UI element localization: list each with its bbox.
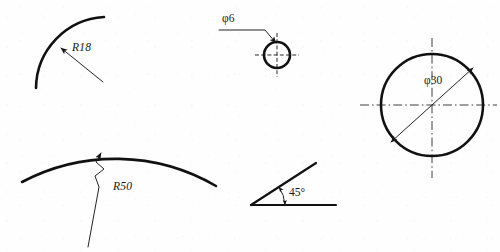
dimension-label-r18: R18 bbox=[71, 41, 91, 53]
angle-inclined-line bbox=[251, 163, 316, 205]
figure-radius-r18: R18 bbox=[36, 17, 104, 88]
dimension-label-phi6: φ6 bbox=[222, 12, 235, 25]
figure-angle-45: 45° bbox=[251, 163, 336, 205]
angle-dimension-arc bbox=[279, 187, 285, 205]
figure-diameter-phi30: φ30 bbox=[360, 38, 497, 178]
leader-line-phi6 bbox=[219, 30, 276, 43]
figure-radius-r50: R50 bbox=[22, 153, 216, 247]
drawing-sheet: R18 φ6 R50 45° φ30 bbox=[0, 0, 500, 252]
dimension-label-r50: R50 bbox=[112, 180, 132, 192]
drawing-canvas: R18 φ6 R50 45° φ30 bbox=[0, 0, 500, 252]
figure-diameter-phi6: φ6 bbox=[219, 12, 299, 77]
dimension-label-phi30: φ30 bbox=[424, 74, 442, 87]
leader-line-r50-jogged bbox=[88, 153, 104, 247]
dimension-label-45deg: 45° bbox=[289, 186, 306, 198]
arc-r18 bbox=[36, 17, 104, 88]
leader-line-r18 bbox=[61, 48, 103, 82]
